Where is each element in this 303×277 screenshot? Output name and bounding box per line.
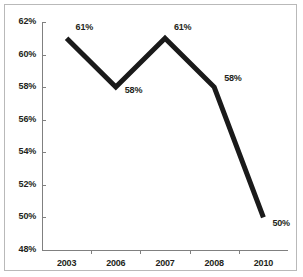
y-axis-tick-label: 52% (10, 179, 36, 189)
x-axis-tick-label: 2010 (243, 258, 283, 268)
data-point-label: 61% (174, 22, 191, 32)
x-axis-tick-label: 2006 (96, 258, 136, 268)
x-axis-tick-label: 2008 (194, 258, 234, 268)
y-axis-tick-label: 48% (10, 244, 36, 254)
y-axis-tick-label: 60% (10, 49, 36, 59)
data-point-label: 50% (272, 218, 289, 228)
x-axis-tick-label: 2003 (47, 258, 87, 268)
chart-canvas (0, 0, 303, 277)
data-line-series-1 (67, 38, 264, 217)
y-axis-tick-label: 58% (10, 81, 36, 91)
axes (42, 22, 288, 251)
data-point-label: 61% (76, 22, 93, 32)
y-axis-tick-label: 54% (10, 146, 36, 156)
x-axis-tick-label: 2007 (145, 258, 185, 268)
y-axis-tick-label: 50% (10, 211, 36, 221)
data-point-label: 58% (125, 85, 142, 95)
y-axis-tick-label: 56% (10, 114, 36, 124)
line-chart: 62%60%58%56%54%52%50%48% 200320062007200… (0, 0, 303, 277)
y-axis-tick-label: 62% (10, 16, 36, 26)
data-point-label: 58% (224, 73, 241, 83)
